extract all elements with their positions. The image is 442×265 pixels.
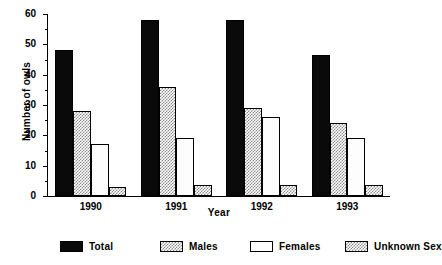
legend-label: Females <box>279 241 320 252</box>
y-axis-minor-tick <box>45 181 48 182</box>
legend-label: Unknown Sex <box>374 241 442 252</box>
legend-label: Total <box>89 241 113 252</box>
bar-group <box>55 14 126 196</box>
plot-area: 0102030405060 1990199119921993 <box>48 14 390 196</box>
y-axis-tick: 50 <box>43 44 48 45</box>
y-axis-tick-label: 0 <box>30 190 36 201</box>
x-axis-baseline <box>47 196 390 197</box>
bar-females-1990 <box>91 144 109 196</box>
bar-total-1992 <box>226 20 244 196</box>
y-axis-minor-tick <box>45 29 48 30</box>
y-axis-minor-tick <box>45 60 48 61</box>
y-axis-tick-label: 50 <box>25 38 36 49</box>
bar-males-1993 <box>330 123 348 196</box>
y-axis-tick: 20 <box>43 135 48 136</box>
bar-males-1990 <box>73 111 91 196</box>
y-axis-tick: 60 <box>43 14 48 15</box>
bar-total-1990 <box>55 50 73 196</box>
bar-females-1992 <box>262 117 280 196</box>
bar-males-1992 <box>244 108 262 196</box>
bar-total-1991 <box>141 20 159 196</box>
legend-swatch-males <box>160 241 183 252</box>
bar-females-1993 <box>347 138 365 196</box>
bar-group <box>141 14 212 196</box>
legend-swatch-unknown <box>345 241 368 252</box>
bar-group <box>312 14 383 196</box>
legend-swatch-total <box>60 241 83 252</box>
x-axis-title: Year <box>48 207 390 218</box>
bar-group <box>226 14 297 196</box>
legend-swatch-females <box>250 241 273 252</box>
bar-unknown-1991 <box>194 185 212 196</box>
bar-unknown-1992 <box>280 185 298 196</box>
legend-item-females: Females <box>250 239 320 253</box>
y-axis-tick-label: 60 <box>25 8 36 19</box>
y-axis-tick-label: 10 <box>25 160 36 171</box>
bar-unknown-1993 <box>365 185 383 196</box>
y-axis-tick: 0 <box>43 196 48 197</box>
bar-unknown-1990 <box>109 187 127 196</box>
y-axis-minor-tick <box>45 90 48 91</box>
legend-item-unknown: Unknown Sex <box>345 239 442 253</box>
y-axis-tick-label: 40 <box>25 69 36 80</box>
chart-legend: TotalMalesFemalesUnknown Sex <box>60 239 390 255</box>
y-axis-tick: 10 <box>43 166 48 167</box>
y-axis-minor-tick <box>45 120 48 121</box>
bar-males-1991 <box>159 87 177 196</box>
y-axis-tick-label: 30 <box>25 99 36 110</box>
bar-total-1993 <box>312 55 330 196</box>
y-axis-tick: 30 <box>43 105 48 106</box>
y-axis-tick-label: 20 <box>25 129 36 140</box>
legend-item-males: Males <box>160 239 218 253</box>
legend-item-total: Total <box>60 239 113 253</box>
y-axis-tick: 40 <box>43 75 48 76</box>
legend-label: Males <box>189 241 218 252</box>
bar-females-1991 <box>176 138 194 196</box>
y-axis-minor-tick <box>45 151 48 152</box>
